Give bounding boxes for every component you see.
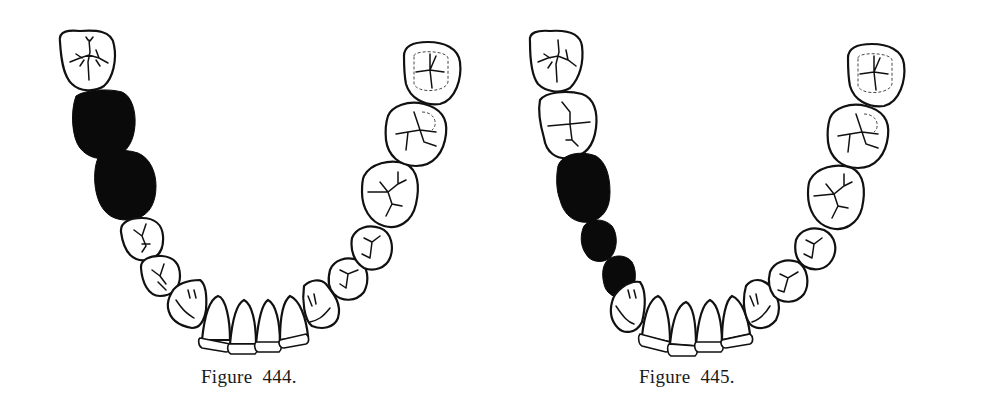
tooth-right-second-premolar xyxy=(352,226,392,269)
tooth-right-central-incisor xyxy=(695,300,724,352)
tooth-right-first-molar xyxy=(808,166,864,229)
tooth-right-first-premolar xyxy=(769,260,808,301)
tooth-left-first-molar-filled xyxy=(557,153,610,222)
tooth-left-first-molar-filled xyxy=(95,150,156,220)
tooth-right-third-molar xyxy=(848,44,904,106)
tooth-right-central-incisor xyxy=(255,300,282,352)
dental-arch-diagram xyxy=(0,0,492,360)
tooth-left-second-molar xyxy=(539,92,596,158)
tooth-left-second-premolar-filled xyxy=(581,220,616,261)
tooth-right-third-molar xyxy=(404,42,460,104)
tooth-left-third-molar xyxy=(530,31,583,92)
tooth-left-third-molar xyxy=(60,31,115,91)
figure-caption: Figure 445. xyxy=(639,366,735,388)
tooth-left-second-molar-filled xyxy=(73,90,136,159)
tooth-left-second-premolar xyxy=(121,218,163,260)
tooth-right-first-molar xyxy=(362,162,418,227)
dental-arch-diagram xyxy=(466,0,958,360)
figure-445: Figure 445. xyxy=(466,0,984,404)
tooth-left-central-incisor xyxy=(668,302,698,356)
tooth-right-second-premolar xyxy=(795,228,835,269)
figure-444: Figure 444. xyxy=(0,0,492,404)
tooth-right-second-molar xyxy=(386,103,447,166)
tooth-right-second-molar xyxy=(828,105,889,168)
tooth-left-central-incisor xyxy=(228,300,258,354)
figure-caption: Figure 444. xyxy=(201,366,297,388)
